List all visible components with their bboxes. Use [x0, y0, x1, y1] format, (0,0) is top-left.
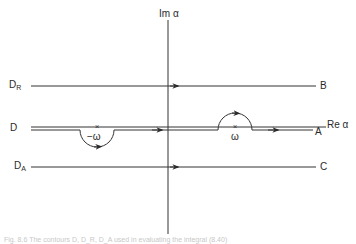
- pole-omega-label: ω: [231, 132, 239, 142]
- contour-dr-label: DR: [9, 80, 21, 91]
- pole-omega-marker: ×: [233, 122, 238, 131]
- contour-dr-end-label: B: [320, 81, 327, 91]
- pole-minus-omega-marker: ×: [95, 122, 100, 131]
- contour-d-label: D: [10, 123, 17, 133]
- real-axis-label: Re α: [327, 120, 348, 130]
- contour-da-label: DA: [14, 161, 26, 172]
- pole-minus-omega-label: −ω: [87, 132, 101, 142]
- contour-d-arrow-lower-indent: [94, 147, 101, 148]
- contour-da-end-label: C: [320, 162, 327, 172]
- contour-d-end-label: A: [315, 127, 322, 137]
- contour-diagram: × ×: [0, 0, 356, 244]
- contour-d-arrow-upper-indent: [232, 113, 239, 114]
- figure-caption: Fig. 8.6 The contours D, D_R, D_A used i…: [4, 236, 227, 243]
- imaginary-axis-label: Im α: [159, 9, 179, 19]
